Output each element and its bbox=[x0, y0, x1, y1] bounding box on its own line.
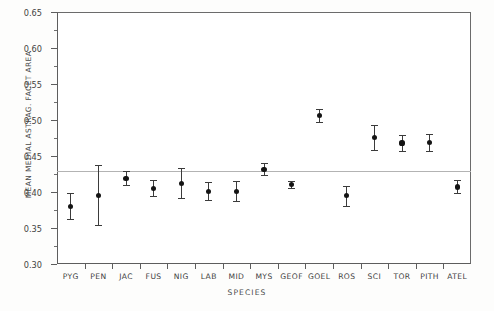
y-axis-minor-tick bbox=[54, 102, 57, 103]
x-axis-tick bbox=[361, 264, 362, 269]
y-axis-tick-label: 0.35 bbox=[24, 224, 42, 234]
x-axis-tick-label-goel: GOEL bbox=[308, 272, 331, 281]
x-axis-tick bbox=[195, 264, 196, 269]
error-bar-cap-lower bbox=[67, 219, 74, 220]
error-bar-cap-upper bbox=[205, 182, 212, 183]
error-bar-cap-upper bbox=[316, 109, 323, 110]
y-axis-minor-tick bbox=[54, 246, 57, 247]
error-bar-cap-lower bbox=[95, 225, 102, 226]
mean-marker bbox=[179, 181, 184, 186]
chart-figure: MEAN MEDIAL ASTRAG. FACET AREA 0.300.350… bbox=[0, 0, 494, 311]
error-bar-cap-upper bbox=[150, 180, 157, 181]
x-axis-tick-label-sci: SCI bbox=[368, 272, 382, 281]
mean-marker bbox=[399, 140, 404, 145]
error-bar-cap-lower bbox=[261, 175, 268, 176]
x-axis-tick bbox=[112, 264, 113, 269]
y-axis-minor-tick bbox=[54, 138, 57, 139]
error-bar-cap-upper bbox=[67, 193, 74, 194]
x-axis-tick bbox=[416, 264, 417, 269]
error-bar-cap-upper bbox=[343, 186, 350, 187]
error-bar-cap-upper bbox=[399, 135, 406, 136]
y-axis-tick-label: 0.65 bbox=[24, 8, 42, 18]
x-axis-tick bbox=[140, 264, 141, 269]
plot-frame bbox=[57, 12, 471, 264]
y-axis-tick: 0.40 bbox=[51, 192, 57, 193]
x-axis-tick-label-pen: PEN bbox=[90, 272, 106, 281]
error-bar-cap-lower bbox=[288, 188, 295, 189]
x-axis-tick bbox=[443, 264, 444, 269]
x-axis-tick-label-pith: PITH bbox=[420, 272, 439, 281]
plot-area: 0.300.350.400.450.500.550.600.65 PYGPENJ… bbox=[57, 12, 471, 264]
error-bar-cap-lower bbox=[399, 151, 406, 152]
y-axis-tick-label: 0.50 bbox=[24, 116, 42, 126]
error-bar-cap-upper bbox=[123, 171, 130, 172]
error-bar-cap-upper bbox=[95, 165, 102, 166]
x-axis-tick bbox=[85, 264, 86, 269]
x-axis-tick-label-ros: ROS bbox=[338, 272, 355, 281]
error-bar-cap-upper bbox=[178, 168, 185, 169]
mean-marker bbox=[261, 167, 266, 172]
error-bar-cap-lower bbox=[371, 150, 378, 151]
x-axis-tick-label-pyg: PYG bbox=[63, 272, 79, 281]
error-bar-cap-lower bbox=[316, 122, 323, 123]
y-axis-tick: 0.45 bbox=[51, 156, 57, 157]
x-axis-tick-label-mys: MYS bbox=[255, 272, 272, 281]
y-axis-tick: 0.50 bbox=[51, 120, 57, 121]
y-axis-tick-label: 0.40 bbox=[24, 188, 42, 198]
y-axis-minor-tick bbox=[54, 30, 57, 31]
y-axis-tick: 0.55 bbox=[51, 84, 57, 85]
error-bar-cap-upper bbox=[426, 134, 433, 135]
x-axis-tick bbox=[250, 264, 251, 269]
error-bar-cap-lower bbox=[426, 151, 433, 152]
mean-marker bbox=[123, 176, 128, 181]
y-axis-tick-label: 0.60 bbox=[24, 44, 42, 54]
y-axis-tick-label: 0.45 bbox=[24, 152, 42, 162]
error-bar-cap-lower bbox=[233, 201, 240, 202]
error-bar-cap-upper bbox=[454, 180, 461, 181]
x-axis-title: SPECIES bbox=[0, 288, 494, 297]
x-axis-tick bbox=[223, 264, 224, 269]
x-axis-tick bbox=[333, 264, 334, 269]
x-axis-tick-label-mid: MID bbox=[228, 272, 244, 281]
x-axis-tick bbox=[305, 264, 306, 269]
mean-marker bbox=[455, 184, 460, 189]
x-axis-tick-label-geof: GEOF bbox=[280, 272, 303, 281]
y-axis-tick-label: 0.55 bbox=[24, 80, 42, 90]
y-axis-minor-tick bbox=[54, 210, 57, 211]
error-bar-cap-upper bbox=[371, 125, 378, 126]
mean-marker bbox=[234, 189, 239, 194]
mean-marker bbox=[317, 113, 322, 118]
y-axis-tick: 0.65 bbox=[51, 12, 57, 13]
x-axis-tick-label-jac: JAC bbox=[119, 272, 133, 281]
x-axis-tick bbox=[167, 264, 168, 269]
y-axis-tick: 0.60 bbox=[51, 48, 57, 49]
x-axis-tick-label-tor: TOR bbox=[393, 272, 410, 281]
y-axis-tick: 0.35 bbox=[51, 228, 57, 229]
error-bar-cap-lower bbox=[123, 185, 130, 186]
error-bar-cap-lower bbox=[454, 193, 461, 194]
y-axis-tick: 0.30 bbox=[51, 264, 57, 265]
y-axis-minor-tick bbox=[54, 66, 57, 67]
error-bar-cap-upper bbox=[261, 163, 268, 164]
error-bar-cap-lower bbox=[178, 198, 185, 199]
error-bar-cap-lower bbox=[150, 196, 157, 197]
x-axis-tick-label-fus: FUS bbox=[146, 272, 162, 281]
x-axis-tick-label-atel: ATEL bbox=[447, 272, 467, 281]
error-bar-cap-lower bbox=[205, 200, 212, 201]
error-bar-cap-lower bbox=[343, 206, 350, 207]
x-axis-tick bbox=[278, 264, 279, 269]
error-bar-cap-upper bbox=[233, 181, 240, 182]
x-axis-tick-label-lab: LAB bbox=[201, 272, 217, 281]
y-axis-tick-label: 0.30 bbox=[24, 260, 42, 270]
x-axis-tick-label-nig: NIG bbox=[174, 272, 189, 281]
y-axis-minor-tick bbox=[54, 174, 57, 175]
mean-marker bbox=[372, 135, 377, 140]
x-axis-tick bbox=[388, 264, 389, 269]
